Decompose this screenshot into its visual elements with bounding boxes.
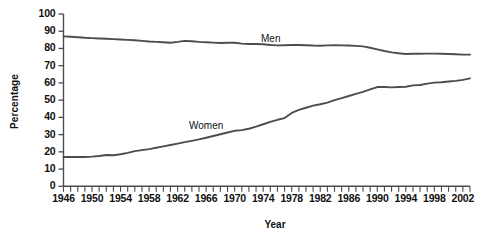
y-tick-label: 70 (30, 60, 56, 71)
x-tick-label: 2002 (446, 193, 480, 204)
series-line-women (64, 78, 471, 157)
series-label-women: Women (189, 120, 223, 131)
y-tick-label: 60 (30, 77, 56, 88)
x-axis-ticks (64, 186, 471, 192)
x-axis-title: Year (251, 219, 299, 230)
y-tick-label: 50 (30, 94, 56, 105)
y-tick-label: 30 (30, 129, 56, 140)
chart-canvas (0, 0, 484, 244)
y-tick-label: 10 (30, 163, 56, 174)
series-label-men: Men (261, 33, 280, 44)
line-chart: 0102030405060708090100 19461950195419581… (0, 0, 484, 244)
y-tick-label: 80 (30, 42, 56, 53)
y-tick-label: 40 (30, 111, 56, 122)
y-axis-title: Percentage (9, 67, 20, 137)
data-series-lines (64, 36, 471, 157)
y-tick-label: 90 (30, 25, 56, 36)
y-axis-ticks (59, 14, 64, 186)
y-tick-label: 100 (30, 8, 56, 19)
y-tick-label: 20 (30, 146, 56, 157)
y-tick-label: 0 (30, 180, 56, 191)
